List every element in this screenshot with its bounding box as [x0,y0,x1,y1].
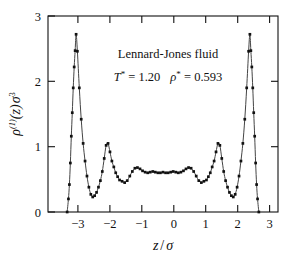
data-point [144,171,147,174]
data-point [103,157,106,160]
data-point [257,211,260,214]
annotation-state-point: T* = 1.20ρ* = 0.593 [114,69,223,84]
data-point [136,166,139,169]
data-point [219,144,222,147]
density-value: = 0.593 [181,70,222,84]
data-point [242,142,245,145]
data-point [251,87,254,90]
data-point [141,169,144,172]
y-axis-title: ρ(1)(z)σ3 [7,92,24,137]
data-point [185,168,188,171]
data-point [250,66,253,69]
data-point [228,191,231,194]
data-point [215,151,218,154]
y-axis-title-of-z: (z) [8,104,24,119]
data-point [131,170,134,173]
x-tick-label: −2 [103,217,116,231]
y-axis-title-sigma-power: 3 [7,92,17,96]
data-point [134,167,137,170]
x-tick-label: 1 [203,217,209,231]
data-point [226,186,229,189]
data-point [164,171,167,174]
plot-frame [48,16,278,212]
data-point [151,170,154,173]
y-axis-ticks-left [48,16,55,212]
svg-text:ρ(1)(z)σ3: ρ(1)(z)σ3 [7,92,24,137]
data-point [167,171,170,174]
data-point [200,181,203,184]
data-point [109,151,112,154]
data-point [101,170,104,173]
data-point [116,175,119,178]
x-tick-label: 3 [266,217,272,231]
data-point [243,118,246,121]
data-point [207,175,210,178]
y-axis-ticks-right [271,81,278,146]
x-tick-label: −3 [71,217,84,231]
data-point [67,198,70,201]
data-point [126,179,129,182]
x-tick-label: 2 [235,217,241,231]
data-point [121,180,124,183]
x-axis-title-denominator: σ [166,238,174,253]
y-tick-label: 0 [35,206,41,220]
data-point [82,142,85,145]
data-point [76,50,79,53]
data-point [238,175,241,178]
data-point [139,168,142,171]
data-point [73,66,76,69]
data-point [197,179,200,182]
data-point [93,194,96,197]
data-point [71,111,74,114]
data-point [78,87,81,90]
data-point [172,170,175,173]
data-point [118,179,121,182]
data-point [88,186,91,189]
temperature-value: = 1.20 [125,70,160,84]
data-point [195,175,198,178]
data-point [159,171,162,174]
data-point [236,186,239,189]
data-point [72,87,75,90]
data-point [220,157,223,160]
data-point [86,175,89,178]
data-point [68,183,71,186]
x-tick-labels: −3 −2 −1 0 1 2 3 [71,217,272,231]
data-point [254,162,257,165]
data-point [162,171,165,174]
data-point [234,193,237,196]
y-tick-labels: 0 1 2 3 [35,10,41,220]
data-point [154,171,157,174]
data-point [75,33,78,36]
annotation-system-label: Lennard-Jones fluid [118,47,219,61]
data-point [232,196,235,199]
data-point [174,171,177,174]
data-point [123,181,126,184]
data-point [95,191,98,194]
data-point [249,33,252,36]
data-point [190,167,193,170]
data-point [112,166,115,169]
data-point [128,175,131,178]
data-point [187,166,190,169]
data-point [252,111,255,114]
data-point [180,171,183,174]
y-axis-title-superscript: (1) [7,119,17,129]
data-point [245,87,248,90]
data-point [157,171,160,174]
density-symbol: ρ [169,70,176,84]
data-point [84,160,87,163]
data-point [240,160,243,163]
data-point [146,171,149,174]
data-point [69,162,72,165]
data-point [80,118,83,121]
x-axis-ticks-bottom [78,205,270,212]
data-point [97,186,100,189]
data-point [224,179,227,182]
data-point [250,49,253,52]
data-point [107,142,110,145]
y-tick-label: 1 [35,140,41,154]
svg-text:z/σ: z/σ [152,238,174,253]
density-profile-chart: −3 −2 −1 0 1 2 3 0 1 2 3 z/σ ρ(1)(z)σ3 [0,0,293,262]
data-point [209,171,212,174]
